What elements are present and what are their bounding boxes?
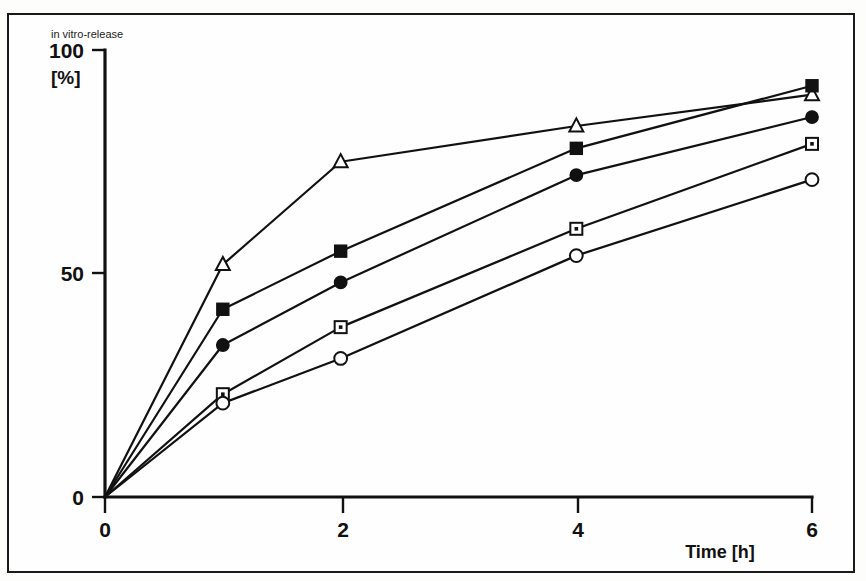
series-filled-circle <box>105 111 818 497</box>
x-tick-label-0: 0 <box>99 518 111 541</box>
datapoint-open-circle-x4 <box>570 249 583 262</box>
series-line-filled-square <box>105 86 812 497</box>
marker-square-open-center-dot <box>221 392 225 396</box>
datapoint-filled-square-x4 <box>570 142 582 154</box>
y-tick-label-50: 50 <box>61 262 84 285</box>
marker-circle-filled-icon <box>334 276 346 288</box>
series-layer <box>105 80 819 497</box>
x-tick-label-2: 2 <box>337 518 349 541</box>
datapoint-open-circle-x6 <box>806 173 819 186</box>
series-open-circle <box>105 173 818 497</box>
datapoint-open-square-x2 <box>335 321 347 333</box>
marker-circle-open-icon <box>216 397 229 410</box>
x-tick-label-6: 6 <box>806 518 818 541</box>
marker-circle-filled-icon <box>217 339 229 351</box>
marker-circle-filled-icon <box>806 111 818 123</box>
marker-circle-filled-icon <box>570 169 582 181</box>
marker-circle-open-icon <box>806 173 819 186</box>
marker-square-open-center-dot <box>339 325 343 329</box>
chart-canvas: in vitro-release [%] 0 50 100 0 2 4 6 Ti… <box>0 0 866 581</box>
marker-square-filled-icon <box>217 303 229 315</box>
datapoint-open-circle-x2 <box>334 352 347 365</box>
marker-square-open-center-dot <box>810 142 814 146</box>
marker-circle-open-icon <box>334 352 347 365</box>
figure-container: in vitro-release [%] 0 50 100 0 2 4 6 Ti… <box>0 0 866 581</box>
datapoint-open-square-x6 <box>806 138 818 150</box>
y-tick-label-0: 0 <box>72 486 84 509</box>
marker-square-filled-icon <box>806 80 818 92</box>
marker-square-open-center-dot <box>575 227 579 231</box>
series-open-square <box>105 138 818 497</box>
datapoint-filled-square-x1 <box>217 303 229 315</box>
x-axis-title: Time [h] <box>685 542 755 562</box>
marker-square-filled-icon <box>335 245 347 257</box>
datapoint-filled-circle-x6 <box>806 111 818 123</box>
datapoint-filled-square-x2 <box>335 245 347 257</box>
datapoint-filled-circle-x1 <box>217 339 229 351</box>
series-line-open-triangle <box>105 95 812 497</box>
marker-circle-open-icon <box>570 249 583 262</box>
series-open-triangle <box>105 87 819 497</box>
datapoint-filled-square-x6 <box>806 80 818 92</box>
series-line-open-square <box>105 144 812 497</box>
series-line-open-circle <box>105 180 812 497</box>
y-tick-label-100: 100 <box>49 39 84 62</box>
datapoint-filled-circle-x2 <box>334 276 346 288</box>
marker-square-filled-icon <box>570 142 582 154</box>
datapoint-filled-circle-x4 <box>570 169 582 181</box>
datapoint-open-circle-x1 <box>216 397 229 410</box>
y-axis-unit-label: [%] <box>51 67 81 88</box>
datapoint-open-square-x4 <box>570 223 582 235</box>
x-tick-label-4: 4 <box>572 518 584 541</box>
